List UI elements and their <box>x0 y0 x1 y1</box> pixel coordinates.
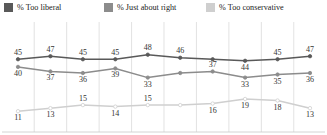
point-value-label: 45 <box>274 48 282 57</box>
plot-svg: 4547454548464445474037363933373335361113… <box>0 20 327 135</box>
point-value-label: 18 <box>274 103 282 112</box>
legend-label: % Too conservative <box>219 3 284 12</box>
legend-label: % Just about right <box>117 3 176 12</box>
point-value-label: 45 <box>79 48 87 57</box>
legend-item-just-about-right[interactable]: % Just about right <box>104 3 176 12</box>
point-value-label: 44 <box>241 63 249 72</box>
point-value-label: 13 <box>46 110 54 119</box>
point-value-label: 39 <box>111 70 119 79</box>
data-point[interactable] <box>81 103 84 106</box>
point-value-label: 13 <box>306 110 314 119</box>
point-value-label: 15 <box>144 94 152 103</box>
point-value-label: 37 <box>46 73 54 82</box>
point-value-label: 48 <box>144 43 152 52</box>
square-swatch-icon <box>4 3 13 12</box>
plot-area: 4547454548464445474037363933373335361113… <box>0 20 327 135</box>
data-point[interactable] <box>146 53 149 56</box>
data-point[interactable] <box>179 71 182 74</box>
data-point[interactable] <box>81 58 84 61</box>
data-point[interactable] <box>114 58 117 61</box>
data-point[interactable] <box>146 103 149 106</box>
legend-item-too-liberal[interactable]: % Too liberal <box>4 3 61 12</box>
data-point[interactable] <box>16 58 19 61</box>
point-value-label: 35 <box>274 77 282 86</box>
point-value-label: 15 <box>79 94 87 103</box>
point-value-label: 33 <box>144 80 152 89</box>
point-value-label: 16 <box>209 106 217 115</box>
point-value-label: 37 <box>209 60 217 69</box>
data-point[interactable] <box>308 55 311 58</box>
data-point[interactable] <box>211 70 214 73</box>
data-point[interactable] <box>276 58 279 61</box>
point-value-label: 36 <box>306 75 314 84</box>
data-point[interactable] <box>179 56 182 59</box>
data-point[interactable] <box>179 103 182 106</box>
point-value-label: 36 <box>79 75 87 84</box>
chart-legend: % Too liberal % Just about right % Too c… <box>0 0 327 20</box>
point-value-label: 47 <box>306 45 314 54</box>
point-value-label: 45 <box>14 48 22 57</box>
point-value-label: 46 <box>176 46 184 55</box>
point-value-label: 45 <box>111 48 119 57</box>
point-value-label: 19 <box>241 101 249 110</box>
point-value-label: 33 <box>241 80 249 89</box>
point-value-label: 11 <box>14 113 22 122</box>
square-swatch-icon <box>206 3 215 12</box>
legend-label: % Too liberal <box>17 3 61 12</box>
point-value-label: 40 <box>14 69 22 78</box>
line-chart: % Too liberal % Just about right % Too c… <box>0 0 327 135</box>
point-value-label: 47 <box>46 45 54 54</box>
legend-item-too-conservative[interactable]: % Too conservative <box>206 3 284 12</box>
data-point[interactable] <box>49 55 52 58</box>
square-swatch-icon <box>104 3 113 12</box>
point-value-label: 14 <box>111 109 119 118</box>
